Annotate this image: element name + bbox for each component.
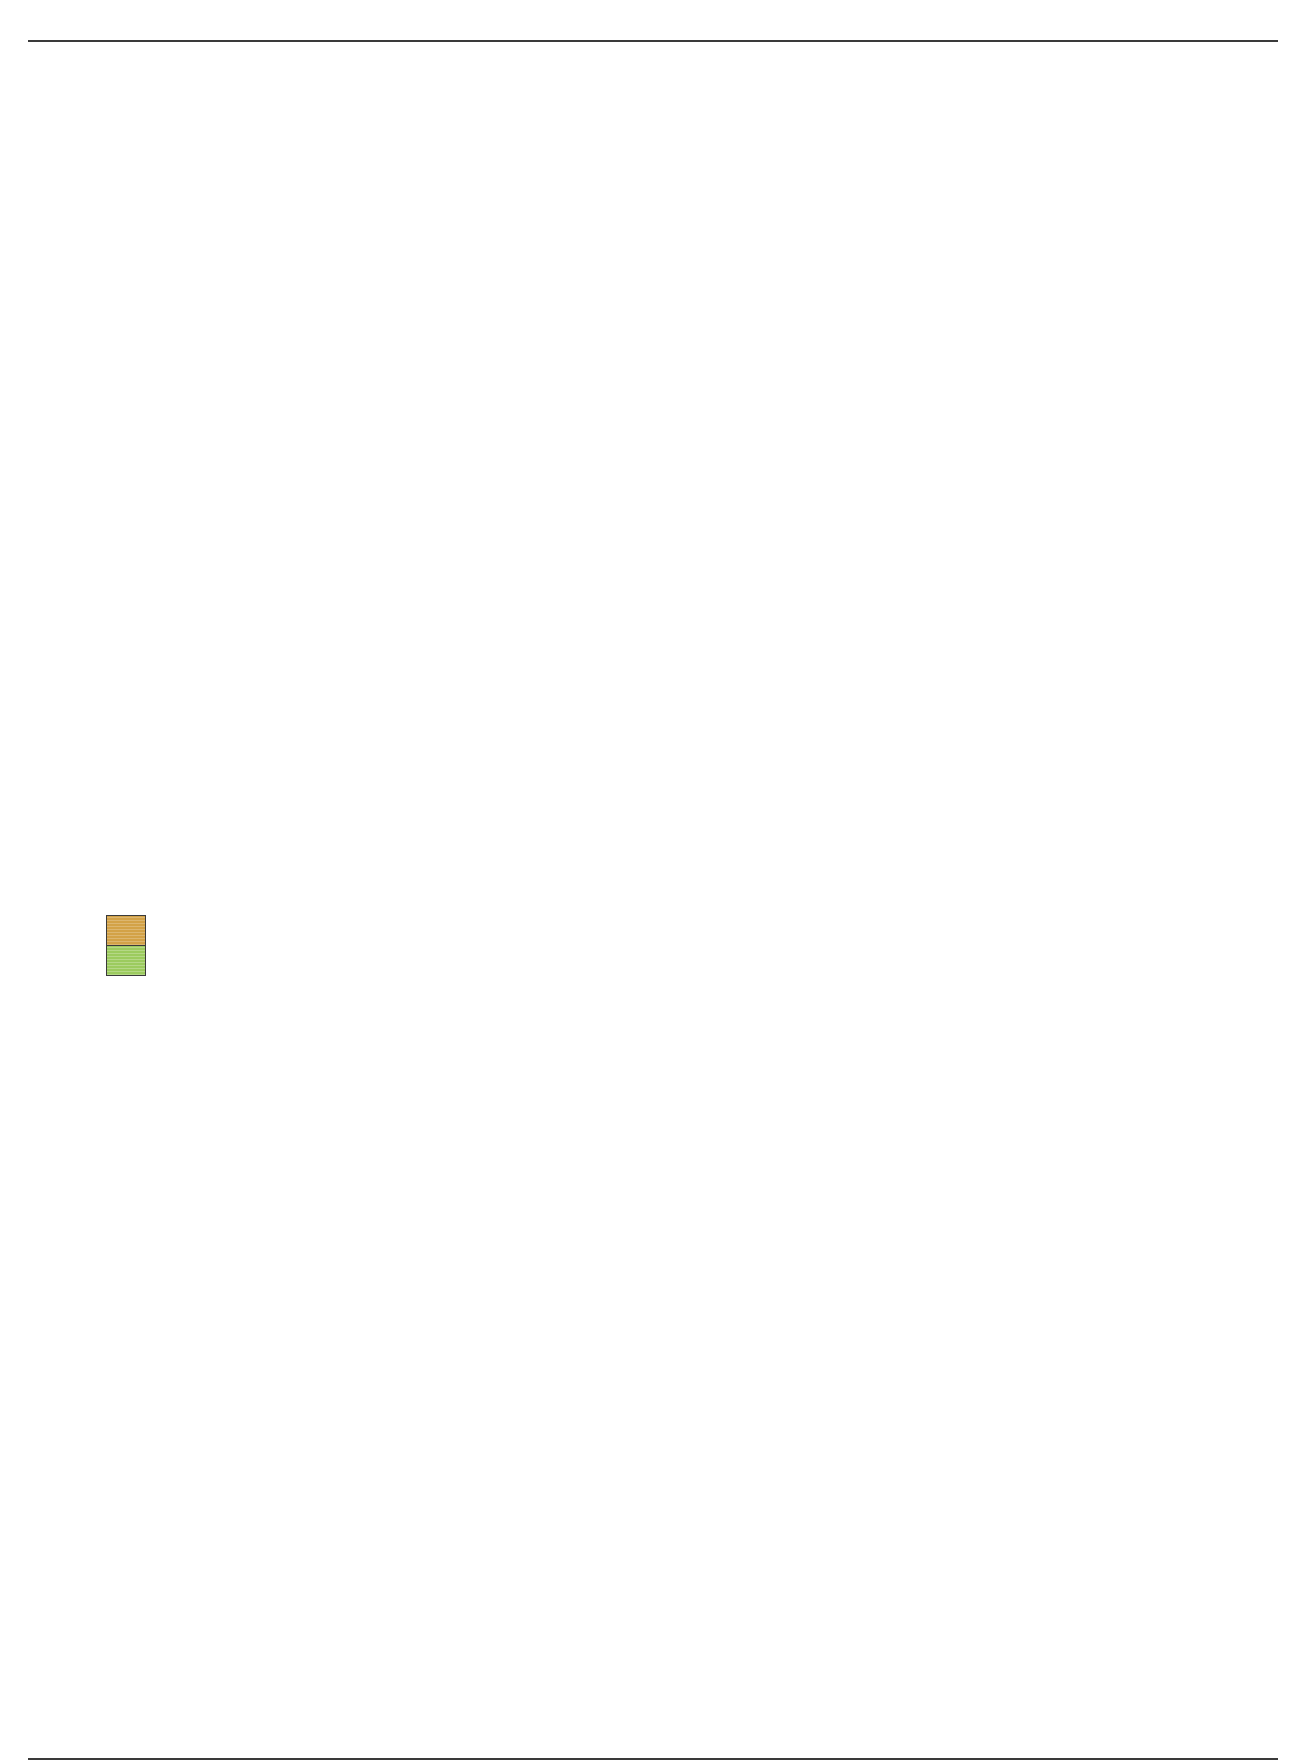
bottom-divider [28, 1758, 1278, 1760]
infographic-page [0, 0, 1302, 1761]
chart-bottom [0, 0, 1302, 1700]
